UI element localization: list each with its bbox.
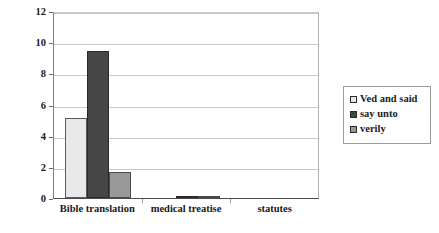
bar-chart: 024681012 Bible translationmedical treat… — [0, 0, 439, 233]
legend-swatch-icon-1 — [350, 111, 357, 118]
bar-0-1 — [87, 51, 109, 198]
y-tick-label-4: 4 — [22, 131, 46, 142]
y-tick-label-8: 8 — [22, 69, 46, 80]
bar-1-2 — [198, 196, 220, 198]
legend-item-1: say unto — [350, 108, 425, 121]
x-tick-label-1: medical treatise — [151, 203, 222, 214]
legend-swatch-icon-0 — [350, 96, 357, 103]
y-tick-label-6: 6 — [22, 100, 46, 111]
y-tickmark-0 — [49, 199, 53, 200]
legend-label-0: Ved and said — [360, 94, 417, 105]
legend-swatch-icon-2 — [350, 126, 357, 133]
plot-area — [53, 12, 319, 199]
bar-1-1 — [176, 196, 198, 198]
x-axis-labels: Bible translationmedical treatisestatute… — [53, 203, 319, 223]
y-tick-label-12: 12 — [22, 7, 46, 18]
y-tick-label-10: 10 — [22, 38, 46, 49]
x-tickmark-2 — [230, 199, 231, 203]
legend-label-2: verily — [360, 124, 386, 135]
bar-0-0 — [65, 118, 87, 198]
x-tick-label-0: Bible translation — [60, 203, 135, 214]
bar-group-0 — [65, 13, 131, 198]
bar-group-1 — [154, 13, 220, 198]
x-tickmark-1 — [142, 199, 143, 203]
chart-legend: Ved and saidsay untoverily — [343, 86, 431, 144]
legend-label-1: say unto — [360, 109, 398, 120]
legend-item-0: Ved and said — [350, 93, 425, 106]
y-tick-label-2: 2 — [22, 163, 46, 174]
bar-group-2 — [243, 13, 309, 198]
legend-item-2: verily — [350, 123, 425, 136]
bar-0-2 — [109, 172, 131, 198]
x-tick-label-2: statutes — [257, 203, 291, 214]
y-axis-labels: 024681012 — [14, 12, 46, 199]
y-tick-label-0: 0 — [22, 194, 46, 205]
